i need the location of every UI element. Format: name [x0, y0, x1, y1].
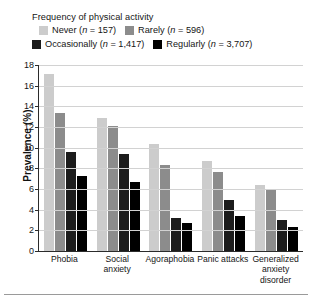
gridline [39, 210, 303, 211]
legend-row-2: Occasionally (n = 1,417) Regularly (n = … [32, 38, 294, 51]
bar [77, 176, 87, 251]
y-tick-label: 0 [14, 246, 34, 256]
legend-swatch-rarely [125, 26, 134, 35]
bar [277, 220, 287, 251]
gridline [39, 148, 303, 149]
bar [171, 218, 181, 251]
x-tick-label: Social anxiety [91, 254, 144, 285]
y-axis-tick-mark [35, 168, 39, 169]
y-axis-ticks: 024681012141618 [14, 60, 34, 251]
bar-groups [39, 65, 303, 251]
x-tick-label: Panic attacks [196, 254, 249, 285]
y-tick-label: 14 [14, 101, 34, 111]
bar-group [92, 65, 145, 251]
bar [160, 165, 170, 251]
x-tick-label: Generalized anxiety disorder [249, 254, 302, 285]
x-tick-label: Agoraphobia [144, 254, 197, 285]
legend-swatch-never [39, 26, 48, 35]
y-tick-label: 10 [14, 143, 34, 153]
bar [202, 161, 212, 251]
y-axis-tick-mark [35, 86, 39, 87]
legend-row-1: Never (n = 157) Rarely (n = 596) [32, 24, 294, 37]
y-axis-tick-mark [35, 65, 39, 66]
legend-swatch-regularly [153, 40, 162, 49]
y-axis-tick-mark [35, 106, 39, 107]
y-tick-label: 2 [14, 225, 34, 235]
legend-label-rarely: Rarely (n = 596) [138, 25, 204, 36]
y-axis-tick-mark [35, 230, 39, 231]
y-axis-tick-mark [35, 127, 39, 128]
y-axis-tick-mark [35, 148, 39, 149]
bar [44, 74, 54, 251]
legend-swatch-occasionally [32, 40, 41, 49]
bar [149, 144, 159, 251]
y-tick-label: 16 [14, 81, 34, 91]
y-tick-label: 6 [14, 184, 34, 194]
chart-axes [38, 65, 303, 252]
chart-legend: Frequency of physical activity Never (n … [32, 11, 294, 51]
bar [130, 182, 140, 251]
legend-item-rarely: Rarely (n = 596) [125, 25, 204, 36]
bar-chart-figure: Frequency of physical activity Never (n … [0, 0, 312, 298]
gridline [39, 86, 303, 87]
bar [224, 200, 234, 251]
y-tick-label: 18 [14, 60, 34, 70]
legend-label-regularly: Regularly (n = 3,707) [166, 39, 252, 50]
bar [182, 223, 192, 251]
bar-group [145, 65, 198, 251]
bar [266, 190, 276, 251]
x-axis-labels: PhobiaSocial anxietyAgoraphobiaPanic att… [38, 254, 302, 285]
gridline [39, 65, 303, 66]
y-axis-tick-mark [35, 189, 39, 190]
figure-bottom-rule [4, 294, 308, 295]
bar [213, 172, 223, 251]
gridline [39, 106, 303, 107]
bar-group [39, 65, 92, 251]
y-tick-label: 4 [14, 205, 34, 215]
x-tick-label: Phobia [38, 254, 91, 285]
gridline [39, 168, 303, 169]
legend-title: Frequency of physical activity [32, 11, 294, 23]
bar [255, 185, 265, 251]
legend-item-occasionally: Occasionally (n = 1,417) [32, 39, 144, 50]
bar-group [250, 65, 303, 251]
legend-label-never: Never (n = 157) [52, 25, 116, 36]
gridline [39, 189, 303, 190]
legend-label-occasionally: Occasionally (n = 1,417) [45, 39, 144, 50]
bar-group [197, 65, 250, 251]
bar [66, 152, 76, 251]
bar [235, 216, 245, 251]
plot-area: Prevalence (%) 024681012141618 PhobiaSoc… [0, 60, 312, 298]
legend-item-regularly: Regularly (n = 3,707) [153, 39, 252, 50]
y-tick-label: 12 [14, 122, 34, 132]
y-axis-tick-mark [35, 210, 39, 211]
y-tick-label: 8 [14, 163, 34, 173]
gridline [39, 230, 303, 231]
y-axis-tick-mark [35, 251, 39, 252]
legend-item-never: Never (n = 157) [39, 25, 116, 36]
gridline [39, 127, 303, 128]
